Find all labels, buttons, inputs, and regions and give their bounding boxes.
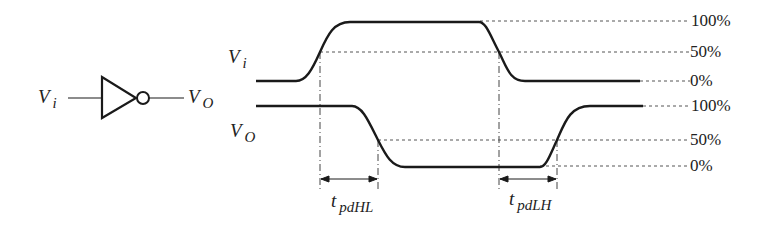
timing-diagram [0,0,762,227]
level-guides [320,21,690,166]
inverter-output-label: VO [188,86,213,108]
tpdlh-label: tpdLH [509,188,551,210]
inverter-symbol [68,77,184,118]
vo-0-label: 0% [690,156,713,176]
vi-waveform-label: Vi [228,46,247,68]
vi-100-label: 100% [691,11,731,31]
delay-arrows [321,176,556,182]
vi-0-label: 0% [690,71,713,91]
inverter-bubble [137,92,149,104]
vo-100-label: 100% [691,96,731,116]
inverter-triangle [102,77,136,118]
tpdhl-label: tpdHL [331,190,373,212]
vo-50-label: 50% [690,130,721,150]
inverter-input-label: Vi [38,86,57,108]
vo-waveform [256,106,643,167]
vo-waveform-label: VO [230,120,255,142]
vi-50-label: 50% [690,42,721,62]
time-markers [320,52,557,190]
